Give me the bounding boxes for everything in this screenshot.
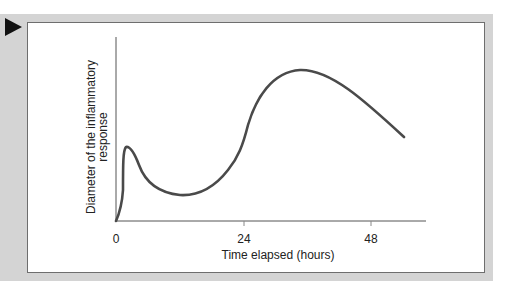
- x-axis-title: Time elapsed (hours): [222, 248, 335, 262]
- x-tick-label-48: 48: [364, 232, 378, 246]
- x-tick-label-0: 0: [113, 232, 120, 246]
- response-curve: [116, 70, 404, 221]
- y-axis-title-line2: response: [96, 112, 110, 162]
- line-chart: 0 24 48 Time elapsed (hours) Diameter of…: [0, 0, 514, 294]
- x-tick-label-24: 24: [237, 232, 251, 246]
